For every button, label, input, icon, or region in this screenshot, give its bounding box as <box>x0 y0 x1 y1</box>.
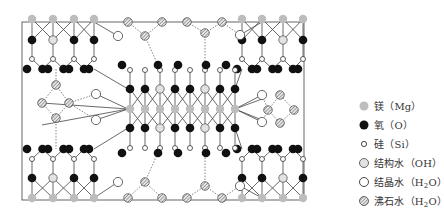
o-atom <box>299 36 308 45</box>
si-atom <box>301 157 306 162</box>
si-atom <box>143 68 148 73</box>
zw-atom <box>158 194 167 203</box>
mg-atom <box>201 105 209 113</box>
zeolite-water-icon <box>358 195 370 207</box>
o-atom <box>85 145 94 154</box>
mg-atom <box>141 105 149 113</box>
si-atom <box>260 57 265 62</box>
o-atom <box>216 85 225 94</box>
si-atom <box>143 146 148 151</box>
si-atom <box>188 68 193 73</box>
o-atom <box>174 61 183 70</box>
mg-atom <box>299 15 307 23</box>
zw-atom <box>183 194 192 203</box>
mg-atom <box>90 194 98 202</box>
mg-atom <box>258 15 266 23</box>
si-atom <box>30 57 35 62</box>
zw-atom <box>264 106 273 115</box>
o-atom <box>186 85 195 94</box>
o-atom <box>70 36 79 45</box>
oh-atom <box>201 85 209 93</box>
o-atom <box>299 174 308 183</box>
o-atom <box>253 65 262 74</box>
legend-label-oxygen: 氧（O） <box>374 117 413 132</box>
mg-atom <box>90 15 98 23</box>
zw-atom <box>141 178 150 187</box>
h2o-atom <box>91 115 100 124</box>
zw-atom <box>218 18 227 27</box>
zw-atom <box>65 99 74 108</box>
legend-item-mg: 镁（Mg） <box>358 96 444 115</box>
legend-label-si: 硅（Si） <box>374 136 415 151</box>
h2o-atom <box>235 30 244 39</box>
mg-atom <box>171 105 179 113</box>
o-atom <box>258 36 267 45</box>
oh-atom <box>49 174 57 182</box>
oxygen-atom-icon <box>358 119 370 131</box>
legend-item-si: 硅（Si） <box>358 134 444 153</box>
mg-atom <box>49 15 57 23</box>
o-atom <box>294 65 303 74</box>
zw-atom <box>141 32 150 41</box>
oh-atom <box>279 36 287 44</box>
o-atom <box>238 174 247 183</box>
oh-atom <box>201 124 209 132</box>
si-atom <box>30 157 35 162</box>
o-atom <box>44 145 53 154</box>
mg-atom <box>299 194 307 202</box>
zw-atom <box>52 81 61 90</box>
o-atom <box>202 61 211 70</box>
si-atom <box>233 146 238 151</box>
o-atom <box>85 65 94 74</box>
h2o-atom <box>235 181 244 190</box>
si-atom <box>51 157 56 162</box>
si-atom <box>72 157 77 162</box>
structural-water-oh-icon <box>358 157 370 169</box>
o-atom <box>186 124 195 133</box>
o-atom <box>174 149 183 158</box>
o-atom <box>253 145 262 154</box>
legend-label-crystal-water: 结晶水（H2O） <box>374 174 444 190</box>
legend: 镁（Mg） 氧（O） 硅（Si） 结构水（OH） 结晶水（H2O） 沸石水（H2… <box>358 96 444 210</box>
o-atom <box>216 124 225 133</box>
si-atom <box>188 146 193 151</box>
si-atom-icon <box>358 138 370 150</box>
o-atom <box>258 174 267 183</box>
zw-atom <box>124 18 133 27</box>
h2o-atom <box>113 31 122 40</box>
o-atom <box>222 149 231 158</box>
si-atom <box>301 57 306 62</box>
legend-label-zeolite-water: 沸石水（H2O） <box>374 193 444 209</box>
legend-item-structural-water: 结构水（OH） <box>358 153 444 172</box>
bond-lines <box>32 19 303 198</box>
o-atom <box>141 124 150 133</box>
atoms <box>23 15 308 203</box>
zw-atom <box>201 29 210 38</box>
o-atom <box>274 145 283 154</box>
oh-atom <box>49 36 57 44</box>
o-atom <box>154 149 163 158</box>
zw-atom <box>158 18 167 27</box>
crystal-water-icon <box>358 176 370 188</box>
o-atom <box>118 61 127 70</box>
o-atom <box>90 174 99 183</box>
si-atom <box>72 57 77 62</box>
o-atom <box>44 65 53 74</box>
o-atom <box>202 149 211 158</box>
zw-atom <box>276 119 285 128</box>
si-atom <box>128 68 133 73</box>
si-atom <box>92 157 97 162</box>
mg-atom <box>28 194 36 202</box>
legend-item-zeolite-water: 沸石水（H2O） <box>358 191 444 210</box>
mg-atom <box>238 194 246 202</box>
o-atom <box>23 145 32 154</box>
si-atom <box>218 68 223 73</box>
o-atom <box>171 124 180 133</box>
o-atom <box>65 65 74 74</box>
oh-atom <box>279 174 287 182</box>
mg-atom <box>49 194 57 202</box>
h2o-atom <box>257 90 266 99</box>
zw-atom <box>218 194 227 203</box>
zw-atom <box>201 182 210 191</box>
o-atom <box>70 174 79 183</box>
